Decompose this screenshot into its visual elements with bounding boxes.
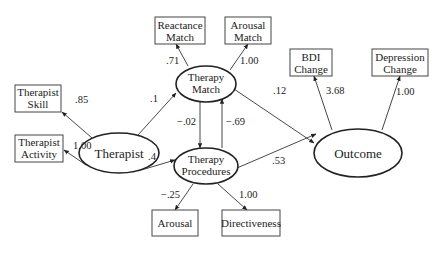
label: Arousal: [231, 19, 266, 31]
coefficients: .85 1.00 .1 .4 .71 1.00 −.02 −.69 .12 .5…: [73, 55, 414, 200]
coef-procedures-arousal: −.25: [161, 189, 180, 200]
label: Therapist: [94, 146, 143, 161]
label: Change: [383, 63, 417, 75]
label: Therapist: [18, 136, 60, 148]
indicator-therapist-skill: Therapist Skill: [15, 85, 61, 112]
label: BDI: [302, 51, 321, 63]
label: Depression: [375, 51, 425, 63]
label: Outcome: [334, 146, 382, 161]
coef-therapist-activity: 1.00: [73, 140, 91, 151]
label: Arousal: [158, 217, 193, 229]
label: Match: [166, 31, 195, 43]
label: Match: [192, 83, 221, 95]
latent-outcome: Outcome: [314, 129, 402, 177]
latent-therapy-procedures: Therapy Procedures: [174, 148, 238, 184]
indicator-reactance-match: Reactance Match: [155, 17, 205, 44]
label: Reactance: [157, 19, 202, 31]
coef-match-arousal-match: 1.00: [240, 55, 258, 66]
latent-therapist: Therapist: [79, 133, 159, 173]
coef-therapist-procedures: .4: [148, 151, 157, 162]
coef-match-outcome: .12: [273, 85, 286, 96]
label: Procedures: [182, 165, 231, 177]
indicator-arousal-match: Arousal Match: [225, 17, 271, 44]
sem-path-diagram: Therapist Skill Therapist Activity React…: [0, 0, 444, 253]
label: Therapy: [188, 153, 225, 165]
coef-procedures-directiveness: 1.00: [239, 189, 257, 200]
label: Directiveness: [221, 217, 281, 229]
label: Therapist: [17, 86, 59, 98]
coef-match-procedures: −.02: [177, 116, 196, 127]
edges: [62, 44, 400, 210]
indicator-bdi-change: BDI Change: [290, 49, 332, 76]
coef-match-reactance: .71: [166, 55, 179, 66]
label: Change: [294, 63, 328, 75]
label: Skill: [28, 98, 49, 110]
indicator-directiveness: Directiveness: [221, 210, 281, 236]
indicator-arousal: Arousal: [152, 210, 198, 236]
latent-therapy-match: Therapy Match: [176, 66, 236, 102]
edge-therapist-skill: [62, 112, 92, 138]
edge-match-outcome: [234, 89, 314, 143]
coef-therapist-skill: .85: [75, 94, 88, 105]
coef-procedures-match: −.69: [226, 116, 245, 127]
edge-outcome-depression: [382, 76, 400, 130]
label: Activity: [21, 148, 58, 160]
label: Match: [234, 31, 263, 43]
coef-outcome-bdi: 3.68: [326, 85, 344, 96]
indicator-depression-change: Depression Change: [372, 49, 428, 76]
coef-therapist-match: .1: [150, 93, 158, 104]
indicator-therapist-activity: Therapist Activity: [15, 135, 63, 162]
coef-outcome-depression: 1.00: [396, 86, 414, 97]
coef-procedures-outcome: .53: [272, 155, 285, 166]
label: Therapy: [188, 71, 225, 83]
